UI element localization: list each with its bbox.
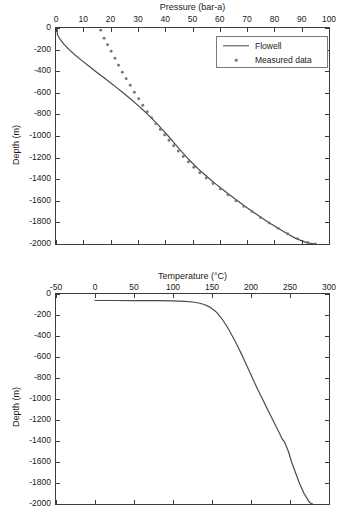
y-tick-mark (56, 50, 60, 51)
data-point (137, 97, 140, 100)
data-point (192, 166, 195, 169)
y-tick-mark (325, 222, 329, 223)
y-tick-mark (325, 244, 329, 245)
x-tick-mark (290, 500, 291, 504)
x-tick-label: 100 (153, 282, 193, 292)
y-tick-mark (325, 399, 329, 400)
y-tick-mark (325, 136, 329, 137)
y-tick-mark (325, 28, 329, 29)
data-point (125, 77, 128, 80)
y-tick-label: -1400 (11, 435, 51, 445)
legend-label-flowell: Flowell (255, 41, 281, 51)
y-tick-mark (325, 357, 329, 358)
data-point (234, 199, 237, 202)
x-tick-mark (173, 294, 174, 298)
y-tick-mark (56, 378, 60, 379)
x-tick-mark (251, 294, 252, 298)
pressure-depth-chart: Pressure (bar-a) Depth (m) 0102030405060… (0, 0, 344, 262)
dot-sample-icon (221, 54, 251, 66)
x-tick-mark (138, 240, 139, 244)
data-point (141, 104, 144, 107)
x-tick-label: 200 (231, 282, 271, 292)
y-tick-label: -800 (11, 372, 51, 382)
pressure-chart-title: Pressure (bar-a) (55, 2, 330, 12)
x-tick-mark (329, 294, 330, 298)
data-point (133, 91, 136, 94)
y-tick-mark (56, 93, 60, 94)
legend-label-measured-data: Measured data (255, 55, 312, 65)
data-point (154, 122, 157, 125)
y-tick-label: -1600 (11, 195, 51, 205)
y-tick-mark (325, 441, 329, 442)
y-tick-mark (56, 222, 60, 223)
data-point (219, 187, 222, 190)
x-tick-label: 0 (75, 282, 115, 292)
x-tick-mark (290, 294, 291, 298)
x-tick-mark (247, 240, 248, 244)
y-tick-mark (325, 294, 329, 295)
legend-entry-flowell: Flowell (217, 39, 327, 53)
data-point (121, 71, 124, 74)
x-tick-mark (193, 28, 194, 32)
data-point (296, 237, 299, 240)
data-point (277, 227, 280, 230)
line-sample-icon (221, 40, 251, 52)
y-tick-mark (56, 504, 60, 505)
x-tick-label: 100 (309, 14, 344, 24)
data-point (187, 160, 190, 163)
y-tick-mark (325, 93, 329, 94)
data-point (251, 210, 254, 213)
data-point (306, 241, 309, 244)
y-tick-label: -1800 (11, 477, 51, 487)
data-point (205, 177, 208, 180)
y-tick-label: -1800 (11, 216, 51, 226)
series-line-flowell (95, 301, 313, 504)
data-point (110, 50, 113, 53)
x-tick-label: 150 (192, 282, 232, 292)
y-tick-label: -2000 (11, 238, 51, 248)
x-tick-mark (302, 28, 303, 32)
y-tick-mark (56, 158, 60, 159)
data-point (177, 150, 180, 153)
y-tick-label: 0 (11, 22, 51, 32)
x-tick-mark (165, 240, 166, 244)
data-point (159, 128, 162, 131)
x-tick-mark (329, 240, 330, 244)
y-tick-mark (56, 71, 60, 72)
y-tick-mark (56, 399, 60, 400)
data-point (268, 221, 271, 224)
y-tick-mark (325, 462, 329, 463)
x-tick-mark (329, 500, 330, 504)
data-point (286, 232, 289, 235)
x-tick-mark (193, 240, 194, 244)
y-tick-mark (325, 71, 329, 72)
data-point (198, 171, 201, 174)
y-tick-mark (325, 504, 329, 505)
y-tick-mark (325, 420, 329, 421)
y-tick-mark (325, 315, 329, 316)
data-point (106, 43, 109, 46)
data-point (314, 243, 317, 244)
y-tick-label: -800 (11, 108, 51, 118)
y-tick-label: -600 (11, 351, 51, 361)
x-tick-label: 50 (114, 282, 154, 292)
x-tick-mark (134, 294, 135, 298)
x-tick-mark (83, 240, 84, 244)
figure-container: Pressure (bar-a) Depth (m) 0102030405060… (0, 0, 344, 523)
y-tick-label: -1200 (11, 152, 51, 162)
y-tick-label: -2000 (11, 498, 51, 508)
y-tick-label: -400 (11, 330, 51, 340)
data-point (227, 193, 230, 196)
y-tick-mark (56, 28, 60, 29)
x-tick-label: 300 (309, 282, 344, 292)
y-tick-mark (56, 315, 60, 316)
y-tick-mark (56, 294, 60, 295)
data-point (114, 57, 117, 60)
y-tick-mark (56, 483, 60, 484)
x-tick-mark (138, 28, 139, 32)
x-tick-mark (165, 28, 166, 32)
y-tick-mark (56, 420, 60, 421)
y-tick-mark (56, 357, 60, 358)
y-tick-label: -600 (11, 87, 51, 97)
x-tick-mark (95, 500, 96, 504)
